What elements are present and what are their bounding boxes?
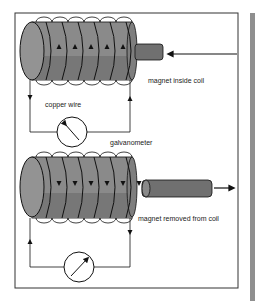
label-magnet-removed: magnet removed from coil	[138, 215, 219, 223]
top-galvanometer	[57, 117, 87, 147]
label-galvanometer: galvanometer	[110, 139, 153, 147]
magnet-inside	[135, 44, 163, 60]
electromagnetic-induction-diagram: magnet inside coil copper wire galvanome…	[0, 0, 257, 303]
label-magnet-inside: magnet inside coil	[148, 77, 204, 85]
magnet-removed	[142, 180, 212, 197]
top-coil	[20, 17, 142, 85]
bottom-coil	[20, 152, 142, 223]
label-copper-wire: copper wire	[45, 101, 81, 109]
bottom-galvanometer	[64, 252, 94, 282]
side-bar	[250, 13, 255, 301]
